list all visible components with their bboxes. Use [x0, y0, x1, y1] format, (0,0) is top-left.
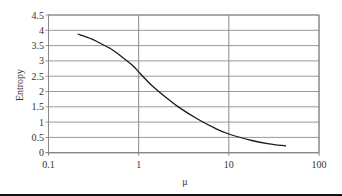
x-tick-labels: 0.1110100 [42, 159, 326, 170]
x-tick-label: 1 [136, 159, 141, 170]
horizontal-gridlines [46, 15, 320, 153]
x-axis-label: μ [182, 176, 187, 187]
y-tick-label: 0.5 [32, 132, 45, 143]
entropy-curve [78, 34, 286, 146]
x-tick-label: 100 [312, 159, 327, 170]
y-tick-label: 2.5 [32, 71, 45, 82]
y-tick-label: 1 [39, 117, 44, 128]
x-tick-label: 0.1 [42, 159, 55, 170]
y-tick-label: 0 [39, 147, 44, 158]
y-tick-label: 3.5 [32, 40, 45, 51]
bottom-border-bar [0, 194, 342, 196]
x-tick-label: 10 [224, 159, 234, 170]
entropy-chart: 00.511.522.533.544.5 0.1110100 μ Entropy [0, 0, 342, 196]
vertical-gridlines [49, 15, 320, 156]
y-tick-label: 3 [39, 55, 44, 66]
y-tick-label: 4 [39, 25, 44, 36]
y-tick-labels: 00.511.522.533.544.5 [32, 10, 45, 159]
plot-area-border [49, 15, 320, 153]
y-tick-label: 4.5 [32, 10, 45, 21]
y-axis-label: Entropy [14, 69, 25, 101]
y-tick-label: 1.5 [32, 101, 45, 112]
y-tick-label: 2 [39, 86, 44, 97]
